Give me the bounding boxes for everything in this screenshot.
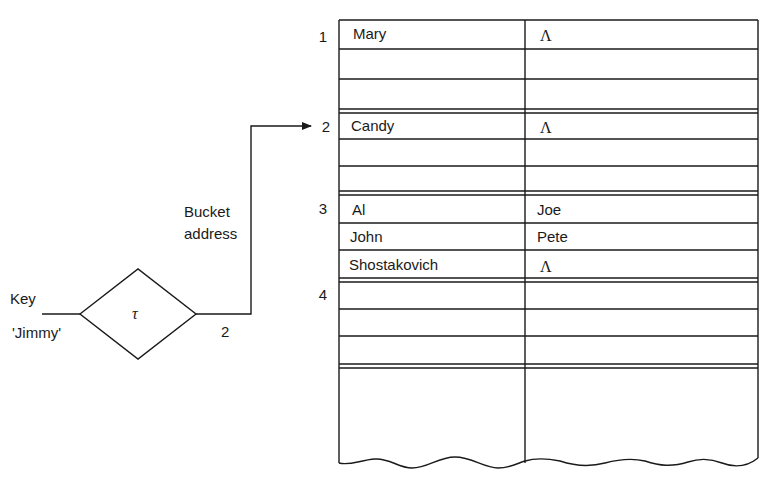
- bucket-address-label-line1: Bucket: [184, 203, 230, 220]
- diagram-lines: [0, 0, 770, 477]
- slot-link: Λ: [540, 258, 552, 275]
- bucket-address-arrow: [196, 126, 311, 314]
- slot-key: Mary: [353, 25, 386, 42]
- slot-link: Joe: [537, 201, 561, 218]
- slot-key: Candy: [351, 117, 394, 134]
- bucket-number-3: 3: [315, 200, 327, 217]
- hash-function-symbol: τ: [132, 305, 138, 322]
- slot-key: John: [350, 228, 383, 245]
- slot-link: Pete: [537, 228, 568, 245]
- slot-key: Shostakovich: [349, 256, 438, 273]
- bucket-address-label-line2: address: [184, 225, 237, 242]
- hash-function-diamond: [80, 269, 196, 359]
- key-value: 'Jimmy': [12, 324, 61, 341]
- bucket-number-4: 4: [315, 286, 327, 303]
- bucket-number-2: 2: [318, 118, 330, 135]
- bucket-number-1: 1: [315, 28, 327, 45]
- hash-output-value: 2: [221, 323, 229, 340]
- slot-link: Λ: [540, 119, 552, 136]
- slot-link: Λ: [540, 27, 552, 44]
- table-row-lines: [339, 20, 758, 368]
- slot-key: Al: [352, 201, 365, 218]
- table-torn-edge: [339, 457, 758, 468]
- key-label: Key: [10, 290, 36, 307]
